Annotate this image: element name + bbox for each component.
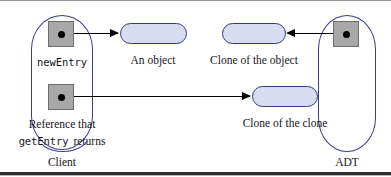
reference-dot-icon [58,31,65,38]
clone-of-the-clone-label: Clone of the clone [243,118,328,130]
get-entry-caption-line1: Reference that [29,119,96,131]
reference-dot-icon [343,31,350,38]
client-brace [36,134,90,152]
bottom-divider-fade [0,175,391,176]
top-divider [0,0,391,1]
clone-of-the-object-label: Clone of the object [210,55,298,67]
get-entry-reference-box [48,84,74,110]
new-entry-reference-box [48,21,74,47]
new-entry-label: newEntry [37,57,87,68]
adt-reference-to-clone-line [293,33,335,34]
clone-of-the-clone-pill [252,86,318,107]
client-container-label: Client [48,157,76,169]
an-object-label: An object [130,55,175,67]
reference-dot-icon [58,94,65,101]
an-object-pill [120,23,187,44]
adt-internal-reference-box [333,21,359,47]
adt-reference-to-clone-arrowhead [286,29,295,37]
get-entry-to-clone-of-clone-arrowhead [242,92,251,100]
clone-of-the-object-pill [222,23,286,44]
get-entry-to-clone-of-clone-line [74,96,250,97]
adt-container-label: ADT [335,157,359,169]
new-entry-to-an-object-arrowhead [110,29,119,37]
figure-canvas: newEntry An object Clone of the object C… [0,0,391,177]
